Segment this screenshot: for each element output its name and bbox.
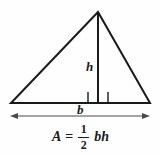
height-label: h: [86, 60, 93, 73]
formula-numerator: 1: [81, 123, 87, 136]
formula-area-symbol: A: [52, 130, 61, 144]
formula-equals-sign: =: [65, 130, 73, 144]
area-formula: A = 1 2 bh: [0, 123, 161, 151]
triangle-area-figure: h b A = 1 2 bh: [0, 0, 161, 155]
formula-base-height-product: bh: [94, 130, 109, 144]
formula-denominator: 2: [81, 139, 87, 152]
base-label: b: [77, 103, 84, 116]
triangle-outline: [11, 12, 150, 103]
formula-one-half-fraction: 1 2: [77, 123, 90, 151]
dimension-arrow-head-right: [142, 113, 150, 119]
dimension-arrow-head-left: [10, 113, 18, 119]
